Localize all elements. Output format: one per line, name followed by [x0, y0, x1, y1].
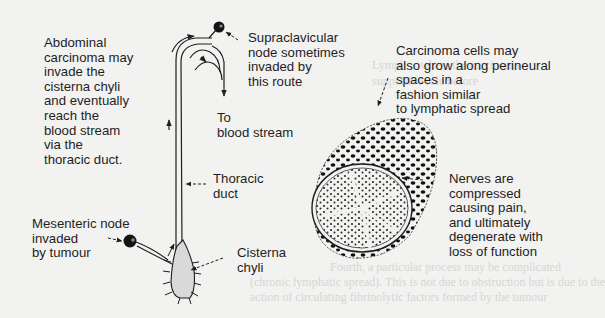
cisterna-chyli-icon	[163, 240, 223, 304]
thoracic-duct-label: Thoracic duct	[213, 172, 264, 201]
thoracic-duct-icon	[169, 36, 224, 260]
supraclavicular-node-label: Supraclavicular node sometimes invaded b…	[248, 31, 345, 89]
abdominal-carcinoma-label: Abdominal carcinoma may invade the ciste…	[44, 36, 133, 167]
mesenteric-node-label: Mesenteric node invaded by tumour	[32, 217, 130, 261]
supraclavicular-node-icon	[209, 22, 238, 41]
cisterna-chyli-label: Cisterna chyli	[237, 246, 286, 275]
nerves-compressed-label: Nerves are compressed causing pain, and …	[449, 172, 543, 260]
perineural-spread-label: Carcinoma cells may also grow along peri…	[396, 44, 551, 117]
to-blood-stream-label: To blood stream	[217, 111, 293, 140]
